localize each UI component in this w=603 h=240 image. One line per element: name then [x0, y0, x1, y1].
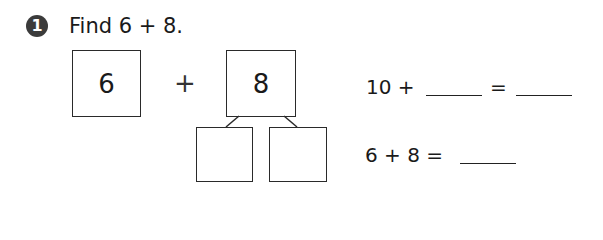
equation2-left: 6 + 8 =: [365, 142, 443, 168]
connector-left: [226, 116, 239, 127]
connector-right: [284, 116, 297, 127]
equation2-blank[interactable]: [460, 163, 516, 164]
split-box-1[interactable]: [196, 127, 253, 182]
equation1-equals: =: [490, 74, 507, 100]
split-box-2[interactable]: [269, 127, 327, 182]
equation1-left: 10 +: [366, 74, 415, 100]
equation1-blank-1[interactable]: [426, 95, 482, 96]
equation1-blank-2[interactable]: [516, 95, 572, 96]
